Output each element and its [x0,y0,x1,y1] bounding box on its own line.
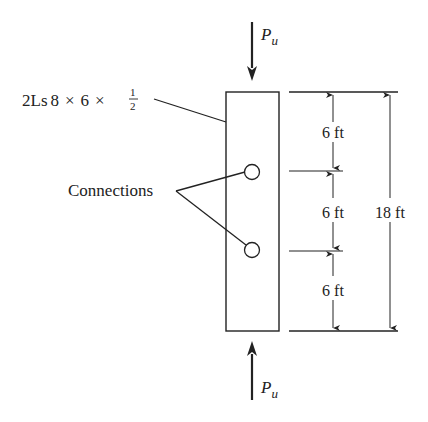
connections-label: Connections [68,181,153,200]
bottom-load-arrow [247,341,257,400]
column-diagram: Pu 2Ls8×6× 1 2 Connections 6 ft 6 ft 6 f… [0,0,428,422]
top-load-arrow [247,22,257,81]
column-member [226,92,279,331]
top-load-symbol: Pu [260,25,278,48]
bottom-load-symbol: Pu [260,378,278,401]
fraction-numerator: 1 [130,86,136,98]
fraction-denominator: 2 [130,100,136,112]
connection-circle-lower [245,243,260,258]
total-dimension-label: 18 ft [375,204,405,221]
member-leader-line [154,99,226,122]
connection-leader-lower [176,191,246,245]
arrow-up-icon [247,341,257,356]
segment-dimension-label-3: 6 ft [322,282,344,299]
member-label: 2Ls8×6× [22,91,105,110]
connection-leader-upper [176,172,245,191]
segment-dimension-label-1: 6 ft [322,124,344,141]
connection-circle-upper [245,165,260,180]
segment-dimension-label-2: 6 ft [322,204,344,221]
arrow-down-icon [247,66,257,81]
